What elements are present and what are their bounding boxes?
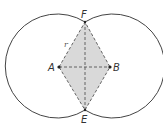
point-b <box>108 65 111 68</box>
label-b: B <box>113 62 120 73</box>
point-e <box>84 109 86 111</box>
point-a <box>57 65 60 68</box>
circles-diagram: A B F E r <box>0 0 163 129</box>
label-e: E <box>81 114 88 125</box>
point-f <box>84 21 86 23</box>
label-radius: r <box>64 40 69 49</box>
rhombus-afbe <box>59 22 110 110</box>
label-a: A <box>47 62 55 73</box>
label-f: F <box>81 9 87 20</box>
